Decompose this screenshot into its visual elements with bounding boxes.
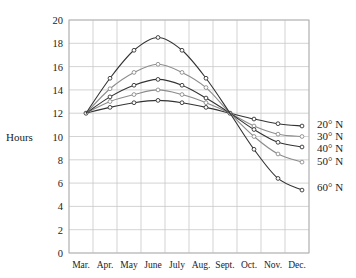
data-point-marker	[156, 88, 160, 92]
data-point-marker	[252, 117, 256, 121]
data-point-marker	[108, 95, 112, 99]
y-axis-ticks: 02468101214161820	[53, 15, 64, 259]
data-point-marker	[132, 93, 136, 97]
x-tick-label: Nov.	[264, 260, 282, 270]
x-axis-ticks: Mar.Apr.MayJuneJulyAug.Sept.Oct.Nov.Dec.	[72, 260, 306, 270]
x-tick-label: May	[120, 260, 138, 270]
y-tick-label: 12	[53, 108, 64, 119]
y-tick-label: 4	[58, 201, 64, 212]
data-point-marker	[204, 96, 208, 100]
data-point-marker	[300, 145, 304, 149]
x-tick-label: Mar.	[72, 260, 90, 270]
y-tick-label: 16	[53, 62, 64, 73]
data-point-marker	[132, 101, 136, 105]
data-point-marker	[204, 105, 208, 109]
data-point-marker	[180, 71, 184, 75]
legend-label: 50° N	[317, 155, 343, 167]
data-point-marker	[132, 48, 136, 52]
data-point-marker	[276, 122, 280, 126]
data-point-marker	[108, 76, 112, 80]
series-60n	[86, 36, 304, 192]
grid	[69, 20, 309, 253]
x-tick-label: Oct.	[241, 260, 257, 270]
data-point-marker	[204, 101, 208, 105]
data-point-marker	[276, 152, 280, 156]
x-tick-label: Sept.	[215, 260, 234, 270]
data-point-marker	[276, 140, 280, 144]
data-point-marker	[300, 124, 304, 128]
legend-label: 20° N	[317, 118, 343, 130]
y-tick-label: 0	[58, 248, 63, 259]
y-tick-label: 8	[58, 155, 63, 166]
data-point-marker	[252, 128, 256, 132]
data-point-marker	[180, 48, 184, 52]
y-tick-label: 6	[58, 178, 63, 189]
legend-label: 30° N	[317, 130, 343, 142]
data-point-marker	[180, 83, 184, 87]
data-point-marker	[180, 101, 184, 105]
data-point-marker	[156, 62, 160, 66]
data-point-marker	[156, 36, 160, 40]
y-tick-label: 10	[53, 132, 64, 143]
y-tick-label: 2	[58, 225, 63, 236]
y-tick-label: 14	[53, 85, 64, 96]
y-tick-label: 20	[53, 15, 64, 26]
y-tick-label: 18	[53, 38, 64, 49]
data-point-marker	[300, 135, 304, 139]
legend: 20° N30° N40° N50° N60° N	[317, 118, 343, 193]
data-point-marker	[180, 93, 184, 97]
data-point-marker	[132, 71, 136, 75]
data-point-marker	[276, 132, 280, 136]
daylight-hours-chart: 02468101214161820 Mar.Apr.MayJuneJulyAug…	[0, 0, 356, 278]
data-point-marker	[204, 76, 208, 80]
x-tick-label: Apr.	[97, 260, 114, 270]
x-tick-label: June	[144, 260, 161, 270]
data-point-marker	[156, 98, 160, 102]
x-tick-label: July	[169, 260, 185, 270]
x-tick-label: Aug.	[192, 260, 211, 270]
data-point-marker	[132, 83, 136, 87]
x-tick-label: Dec.	[288, 260, 306, 270]
legend-label: 60° N	[317, 181, 343, 193]
data-point-marker	[108, 105, 112, 109]
data-point-marker	[156, 78, 160, 82]
y-axis-label: Hours	[6, 131, 33, 143]
data-point-marker	[300, 188, 304, 192]
data-point-marker	[276, 177, 280, 181]
data-point-marker	[252, 147, 256, 151]
data-point-marker	[252, 135, 256, 139]
data-point-marker	[108, 87, 112, 91]
legend-label: 40° N	[317, 142, 343, 154]
series-line	[86, 37, 302, 190]
data-point-marker	[300, 160, 304, 164]
data-point-marker	[204, 86, 208, 90]
data-point-marker	[108, 100, 112, 104]
